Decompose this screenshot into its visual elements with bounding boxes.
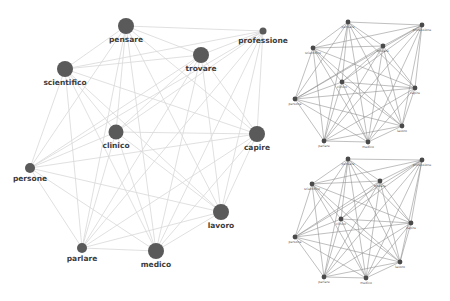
node-label: capire — [244, 143, 270, 152]
node-circle-icon[interactable] — [260, 28, 267, 35]
mini-node-label: pensare — [342, 162, 355, 166]
mini-node-label: trovare — [374, 184, 386, 188]
main-graph-nodes: pensareprofessionetrovarescientificoclin… — [13, 18, 288, 269]
mini-node-medico[interactable]: medico — [360, 276, 372, 285]
node-parlare[interactable]: parlare — [67, 243, 98, 263]
mini-node-persone[interactable]: persone — [289, 235, 302, 244]
edge-professione-lavoro — [221, 31, 263, 212]
mini-node-circle-icon[interactable] — [310, 182, 315, 187]
mini-node-circle-icon[interactable] — [366, 140, 371, 145]
mini-node-circle-icon[interactable] — [398, 260, 403, 265]
node-circle-icon[interactable] — [148, 243, 164, 259]
node-label: professione — [238, 36, 288, 45]
node-circle-icon[interactable] — [193, 47, 209, 63]
mini-node-label: medico — [362, 145, 374, 149]
mini-node-circle-icon[interactable] — [346, 157, 351, 162]
mini-node-pensare[interactable]: pensare — [342, 20, 355, 29]
mini-node-circle-icon[interactable] — [420, 23, 425, 28]
mini-edge-trovare-scientifico — [313, 46, 383, 48]
mini-edge-professione-capire — [415, 25, 422, 88]
mini-node-clinico[interactable]: clinico — [337, 80, 347, 89]
mini-node-label: persone — [289, 240, 302, 244]
node-circle-icon[interactable] — [57, 61, 73, 77]
mini-edge-parlare-medico — [324, 141, 368, 142]
mini-node-medico[interactable]: medico — [362, 140, 374, 149]
edge-professione-scientifico — [65, 31, 263, 69]
node-clinico[interactable]: clinico — [102, 125, 129, 150]
mini-graph-top: pensareprofessionetrovarescientificoclin… — [289, 20, 432, 149]
node-circle-icon[interactable] — [249, 126, 265, 142]
mini-node-circle-icon[interactable] — [293, 97, 298, 102]
mini-node-circle-icon[interactable] — [339, 217, 344, 222]
mini-edge-persone-lavoro — [295, 237, 400, 262]
mini-edge-professione-capire — [411, 160, 422, 223]
mini-edge-clinico-capire — [341, 219, 411, 223]
edge-professione-persone — [30, 31, 263, 168]
edge-persone-medico — [30, 168, 156, 251]
node-circle-icon[interactable] — [77, 243, 87, 253]
edge-trovare-medico — [156, 55, 201, 251]
mini-node-circle-icon[interactable] — [322, 139, 327, 144]
mini-node-capire[interactable]: capire — [410, 86, 420, 95]
mini-node-label: parlare — [318, 280, 329, 284]
edge-trovare-scientifico — [65, 55, 201, 69]
node-circle-icon[interactable] — [109, 125, 124, 140]
mini-edge-pensare-clinico — [342, 22, 348, 82]
mini-node-professione[interactable]: professione — [413, 23, 431, 32]
mini-node-trovare[interactable]: trovare — [377, 44, 389, 53]
mini-node-label: lavoro — [397, 129, 407, 133]
mini-node-circle-icon[interactable] — [293, 235, 298, 240]
edge-clinico-capire — [116, 132, 257, 134]
mini-node-label: pensare — [342, 25, 355, 29]
node-label: parlare — [67, 254, 98, 263]
node-circle-icon[interactable] — [213, 204, 229, 220]
mini-edge-scientifico-lavoro — [312, 184, 400, 262]
mini-node-circle-icon[interactable] — [420, 158, 425, 163]
mini-node-label: professione — [413, 163, 431, 167]
edge-pensare-professione — [126, 26, 263, 31]
edge-trovare-persone — [30, 55, 201, 168]
mini-edge-parlare-medico — [324, 277, 366, 278]
node-medico[interactable]: medico — [141, 243, 171, 269]
mini-node-clinico[interactable]: clinico — [336, 217, 346, 226]
mini-node-circle-icon[interactable] — [311, 46, 316, 51]
mini-node-circle-icon[interactable] — [378, 179, 383, 184]
mini-edge-pensare-lavoro — [348, 22, 402, 126]
mini-node-label: trovare — [377, 49, 389, 53]
mini-node-label: parlare — [318, 144, 329, 148]
node-circle-icon[interactable] — [118, 18, 134, 34]
mini-node-circle-icon[interactable] — [413, 86, 418, 91]
node-capire[interactable]: capire — [244, 126, 270, 152]
mini-edge-scientifico-persone — [295, 184, 312, 237]
mini-graph-bottom: pensareprofessionetrovarescientificoclin… — [289, 157, 432, 285]
mini-node-circle-icon[interactable] — [346, 20, 351, 25]
mini-edge-lavoro-parlare — [324, 262, 400, 277]
mini-node-persone[interactable]: persone — [289, 97, 302, 106]
mini-node-professione[interactable]: professione — [413, 158, 431, 167]
edge-parlare-medico — [82, 248, 156, 251]
mini-node-label: clinico — [337, 85, 347, 89]
mini-node-label: capire — [406, 226, 416, 230]
mini-node-circle-icon[interactable] — [322, 275, 327, 280]
mini-node-circle-icon[interactable] — [340, 80, 345, 85]
mini-node-circle-icon[interactable] — [409, 221, 414, 226]
mini-edge-trovare-scientifico — [312, 181, 380, 184]
mini-node-label: lavoro — [395, 265, 405, 269]
mini-node-trovare[interactable]: trovare — [374, 179, 386, 188]
mini-edge-trovare-parlare — [324, 181, 380, 277]
mini-node-circle-icon[interactable] — [381, 44, 386, 49]
mini-node-pensare[interactable]: pensare — [342, 157, 355, 166]
node-lavoro[interactable]: lavoro — [208, 204, 235, 230]
node-label: medico — [141, 260, 171, 269]
mini-node-circle-icon[interactable] — [364, 276, 369, 281]
node-label: pensare — [109, 35, 143, 44]
node-circle-icon[interactable] — [25, 163, 35, 173]
mini-node-circle-icon[interactable] — [400, 124, 405, 129]
mini-edge-professione-lavoro — [400, 160, 422, 262]
network-diagram-canvas: pensareprofessionetrovarescientificoclin… — [0, 0, 450, 301]
mini-edge-pensare-professione — [348, 159, 422, 160]
node-label: trovare — [185, 64, 216, 73]
mini-edge-scientifico-lavoro — [313, 48, 402, 126]
main-graph-edges — [30, 26, 263, 251]
mini-node-capire[interactable]: capire — [406, 221, 416, 230]
